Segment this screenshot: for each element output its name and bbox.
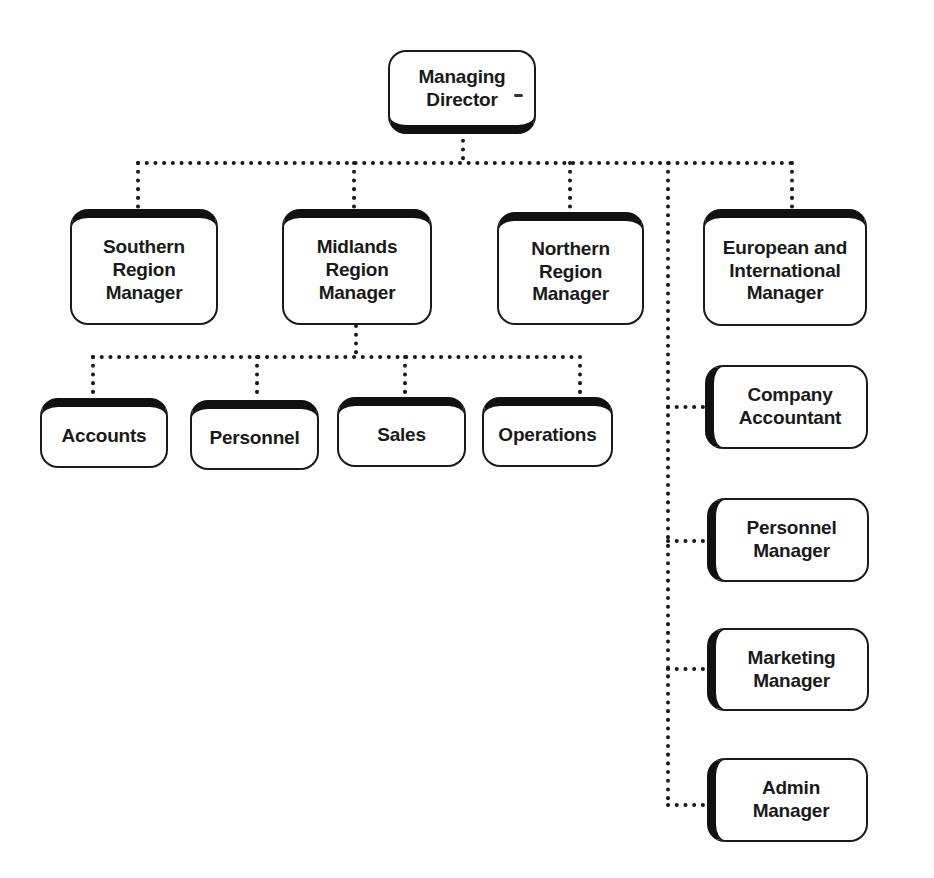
- node-marketing-manager[interactable]: Marketing Manager: [707, 628, 869, 711]
- node-northern-region-manager[interactable]: Northern Region Manager: [497, 212, 644, 325]
- node-label: Operations: [498, 424, 596, 447]
- node-label: Company Accountant: [739, 384, 842, 430]
- node-label: European and International Manager: [723, 237, 847, 305]
- node-sales[interactable]: Sales: [337, 397, 466, 467]
- node-label: Admin Manager: [753, 777, 830, 823]
- node-personnel[interactable]: Personnel: [190, 400, 319, 470]
- node-accounts[interactable]: Accounts: [40, 398, 168, 468]
- node-label: Accounts: [62, 425, 147, 448]
- node-label: Managing Director: [418, 66, 505, 112]
- node-label: Personnel: [209, 427, 299, 450]
- node-label: Midlands Region Manager: [317, 236, 398, 304]
- node-european-international-manager[interactable]: European and International Manager: [703, 209, 867, 326]
- node-label: Marketing Manager: [748, 647, 836, 693]
- node-operations[interactable]: Operations: [482, 397, 613, 467]
- node-label: Southern Region Manager: [103, 236, 185, 304]
- org-chart: Managing Director Southern Region Manage…: [0, 0, 934, 878]
- node-admin-manager[interactable]: Admin Manager: [707, 758, 868, 842]
- node-southern-region-manager[interactable]: Southern Region Manager: [70, 209, 218, 325]
- node-midlands-region-manager[interactable]: Midlands Region Manager: [282, 209, 432, 325]
- node-personnel-manager[interactable]: Personnel Manager: [707, 498, 869, 582]
- stray-mark: [514, 94, 523, 97]
- node-label: Personnel Manager: [746, 517, 836, 563]
- node-label: Northern Region Manager: [531, 238, 610, 306]
- node-company-accountant[interactable]: Company Accountant: [705, 365, 868, 449]
- node-label: Sales: [377, 424, 426, 447]
- node-managing-director[interactable]: Managing Director: [388, 50, 536, 134]
